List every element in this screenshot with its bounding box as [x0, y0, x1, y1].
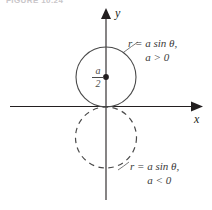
- radius-denominator: 2: [92, 79, 104, 89]
- x-axis-label: x: [194, 112, 199, 127]
- figure-container: FIGURE 10.24 y x a 2 r = a sin θ, a > 0 …: [0, 0, 212, 210]
- upper-equation-line-1: r = a sin θ,: [128, 37, 177, 49]
- lower-label-leader-line: [118, 162, 129, 170]
- upper-equation-line-2: a > 0: [128, 51, 177, 65]
- lower-equation-label: r = a sin θ, a < 0: [130, 160, 179, 188]
- radius-fraction-label: a 2: [92, 66, 104, 89]
- y-axis-label: y: [115, 6, 120, 21]
- lower-equation-line-1: r = a sin θ,: [130, 160, 179, 172]
- radius-numerator: a: [92, 66, 104, 76]
- y-axis-arrowhead: [101, 8, 111, 19]
- lower-equation-line-2: a < 0: [130, 174, 179, 188]
- x-axis-arrowhead: [191, 102, 203, 112]
- upper-equation-label: r = a sin θ, a > 0: [128, 37, 177, 65]
- polar-circle-plot: [0, 0, 212, 210]
